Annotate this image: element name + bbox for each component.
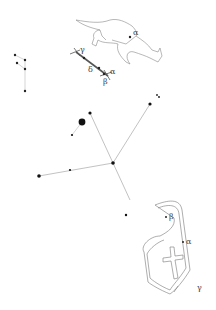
shield-label-beta: β [169,212,174,221]
cross-figure [39,104,150,200]
fox-figure [76,19,162,64]
arrow-label-gamma: γ [80,45,85,54]
cross-stars [37,96,160,216]
shield-figure [143,201,190,294]
arrow-figure: γ δ α β [70,45,116,86]
arrow-label-delta: δ [88,65,93,74]
fox-star-alpha: α [129,28,139,38]
star [156,94,158,96]
arrow-label-alpha: α [110,67,116,76]
small-asterism [14,54,26,92]
arrow-label-beta: β [103,77,108,86]
star-chart: α γ δ α β [0,0,216,310]
shield-label-alpha: α [186,237,192,246]
fox-label-alpha: α [133,28,139,37]
shield-label-gamma: γ [197,283,202,292]
